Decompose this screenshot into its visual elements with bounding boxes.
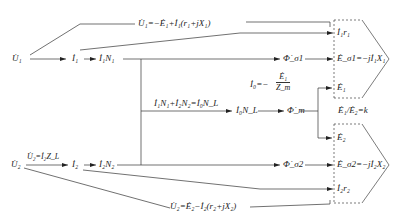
node-i1: İ₁ (72, 54, 78, 63)
node-u2: U̇₂ (11, 160, 21, 169)
node-i2r2: İ₂r₂ (337, 184, 350, 193)
node-u1: U̇₁ (12, 54, 22, 63)
node-i2n2: İ₂N₂ (99, 160, 114, 169)
node-es1: Ė_σ1=−jİ₁X₁ (337, 54, 385, 63)
fraction-numerator: Ė₁ (276, 73, 290, 83)
eq-ratio-k: Ė₁/Ė₂=k (338, 106, 368, 115)
node-i1r1: İ₁r₁ (337, 28, 350, 37)
fraction-denominator: Z_m (276, 83, 290, 92)
node-i0nl: İ₀N_L (236, 106, 258, 115)
node-phi-m: Φ̇_m (287, 106, 305, 115)
node-i1n1: İ₁N₁ (99, 54, 114, 63)
label-i0: İ₀=− (250, 80, 268, 89)
node-phi-s2: Φ̇_σ2 (283, 160, 303, 169)
fraction-e1-zm: Ė₁ Z_m (276, 73, 290, 92)
node-phi-s1: Φ̇_σ1 (283, 54, 303, 63)
transformer-diagram: U̇₁ İ₁ İ₁N₁ U̇₁=−Ė₁+İ₁(r₁+jX₁) Φ̇_σ1 İ₀=… (0, 0, 399, 220)
eq-u2: U̇₂=Ė₂−İ₂(r₂+jX₂) (170, 202, 236, 211)
node-i2: İ₂ (72, 160, 78, 169)
node-e2: Ė₂ (337, 133, 346, 142)
node-es2: Ė_σ2=−jİ₂X₂ (337, 160, 385, 169)
eq-mmf-balance: İ₁N₁+İ₂N₂=İ₀N_L (154, 99, 218, 108)
eq-u1: U̇₁=−Ė₁+İ₁(r₁+jX₁) (138, 19, 210, 28)
eq-u2-load: U̇₂=İ₂Z_L (27, 153, 59, 161)
node-e1: Ė₁ (337, 83, 346, 92)
